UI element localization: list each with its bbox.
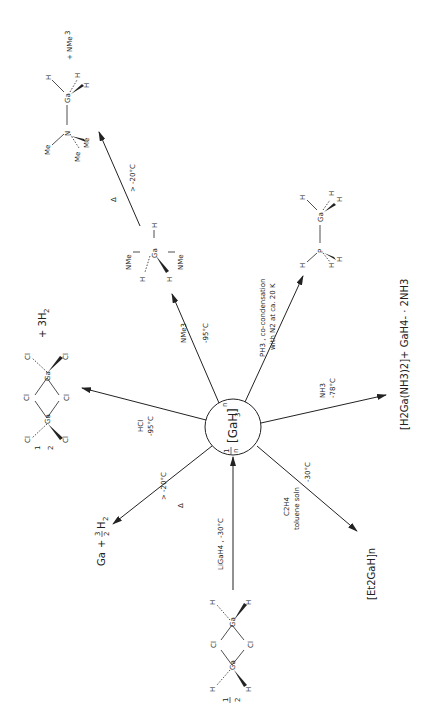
svg-text:n: n: [221, 403, 229, 407]
svg-text:[Et2GaH]n: [Et2GaH]n: [366, 548, 377, 600]
svg-text:Ga: Ga: [96, 552, 107, 566]
svg-text:H: H: [209, 687, 217, 692]
conditions-ligah4: LiGaH4 , -30°C: [217, 518, 225, 570]
conditions-hcl: HCl -95°C: [137, 416, 155, 436]
svg-text:Ga: Ga: [317, 212, 325, 222]
svg-text:n: n: [232, 449, 240, 453]
svg-text:1: 1: [34, 446, 42, 450]
product-gah3-bis-nme3: Ga H H H NMe NMe: [125, 223, 185, 282]
svg-text:Cl: Cl: [24, 353, 32, 360]
svg-text:H: H: [328, 263, 336, 268]
svg-text:H: H: [45, 75, 53, 80]
svg-text:toluene soln: toluene soln: [293, 487, 301, 530]
svg-text:H: H: [336, 257, 344, 262]
svg-text:2: 2: [102, 517, 110, 521]
svg-text:H: H: [245, 687, 253, 692]
product-h2ga-nh3: [H2Ga(NH3)2]+ GaH4- · 2NH3: [399, 279, 410, 430]
svg-text:Δ: Δ: [110, 197, 118, 202]
conditions-nh3: NH3 -78°C: [319, 378, 337, 398]
svg-text:Me: Me: [83, 138, 91, 148]
svg-text:Ga: Ga: [151, 248, 159, 258]
svg-text:+: +: [96, 540, 107, 548]
svg-text:Ga: Ga: [44, 414, 52, 424]
product-me3n-gah3: N Ga Me Me Me H H H + NMe 3: [44, 31, 91, 162]
svg-text:C2H4: C2H4: [283, 496, 291, 516]
svg-text:-95°C: -95°C: [202, 323, 210, 343]
svg-text:H: H: [299, 263, 307, 268]
svg-text:NMe3: NMe3: [180, 323, 188, 343]
svg-text:NMe: NMe: [177, 254, 185, 270]
svg-text:3: 3: [94, 532, 102, 536]
conditions-ph3: PH3 , co-condensation with N2 at ca. 20 …: [259, 278, 277, 357]
svg-text:[H2Ga(NH3)2]+ GaH4- · 2NH3: [H2Ga(NH3)2]+ GaH4- · 2NH3: [399, 279, 410, 430]
svg-text:3: 3: [64, 31, 72, 35]
product-ga2cl6: Ga Ga Cl Cl Cl Cl Cl Cl + 3H 2 1 2: [23, 309, 71, 450]
svg-text:Ga: Ga: [44, 371, 52, 381]
conditions-nme3: NMe3 -95°C: [180, 323, 210, 343]
svg-text:2: 2: [234, 698, 242, 702]
svg-text:H: H: [166, 277, 174, 282]
svg-text:2: 2: [43, 309, 51, 313]
svg-text:H: H: [299, 195, 307, 200]
svg-text:2: 2: [47, 446, 55, 450]
svg-text:Me: Me: [74, 152, 82, 162]
svg-text:P: P: [317, 249, 325, 253]
svg-text:Me: Me: [44, 145, 52, 155]
svg-text:Ga: Ga: [64, 93, 72, 103]
svg-text:+ 3H: + 3H: [37, 313, 48, 338]
center-gah3-node: 1 n [GaH 3 ] n: [205, 399, 261, 455]
reactant-h2gacl-dimer: Ga Ga Cl Cl H H H H 1 2: [209, 600, 255, 703]
svg-text:Δ: Δ: [177, 503, 185, 508]
svg-text:-30°C: -30°C: [304, 462, 312, 482]
svg-text:Cl: Cl: [247, 641, 255, 648]
svg-text:H: H: [328, 191, 336, 196]
svg-text:+ NMe: + NMe: [66, 36, 74, 60]
svg-text:1: 1: [222, 698, 230, 702]
reaction-scheme: 1 n [GaH 3 ] n > -20°C Δ HCl -95°C NMe3 …: [0, 0, 425, 716]
svg-text:NMe: NMe: [125, 254, 133, 270]
svg-text:1: 1: [223, 449, 231, 453]
svg-text:Cl: Cl: [63, 394, 71, 401]
svg-text:Cl: Cl: [210, 641, 218, 648]
svg-text:H: H: [336, 197, 344, 202]
svg-text:H: H: [74, 73, 82, 78]
svg-text:Cl: Cl: [62, 353, 70, 360]
product-et2gah: [Et2GaH]n: [366, 548, 377, 600]
svg-text:H: H: [151, 223, 159, 228]
svg-text:with N2 at ca. 20 K: with N2 at ca. 20 K: [269, 283, 277, 350]
svg-text:H: H: [245, 600, 253, 605]
svg-text:Cl: Cl: [23, 394, 31, 401]
svg-text:H: H: [83, 83, 91, 88]
svg-text:-95°C: -95°C: [147, 416, 155, 436]
svg-text:Ga: Ga: [229, 617, 237, 627]
product-ga-h2: Ga + 3 2 H 2: [94, 517, 111, 566]
svg-text:> -20°C: > -20°C: [160, 472, 168, 500]
svg-text:2: 2: [103, 532, 111, 536]
svg-text:LiGaH4 , -30°C: LiGaH4 , -30°C: [217, 518, 225, 570]
svg-text:H: H: [209, 600, 217, 605]
svg-text:N: N: [64, 131, 72, 136]
product-h3p-gah3: P Ga H H H H H H: [299, 191, 344, 268]
svg-text:Cl: Cl: [62, 436, 70, 443]
svg-text:NH3: NH3: [319, 383, 327, 398]
svg-text:Cl: Cl: [24, 436, 32, 443]
svg-text:]: ]: [226, 408, 240, 413]
svg-text:-78°C: -78°C: [329, 378, 337, 398]
svg-text:Ga: Ga: [229, 660, 237, 670]
svg-text:PH3 , co-condensation: PH3 , co-condensation: [259, 278, 267, 357]
svg-text:H: H: [139, 277, 147, 282]
svg-text:> -20°C: > -20°C: [129, 164, 137, 192]
svg-text:H: H: [96, 521, 107, 529]
conditions-nme3-decomp: Δ > -20°C: [110, 164, 137, 202]
svg-text:HCl: HCl: [137, 420, 145, 432]
